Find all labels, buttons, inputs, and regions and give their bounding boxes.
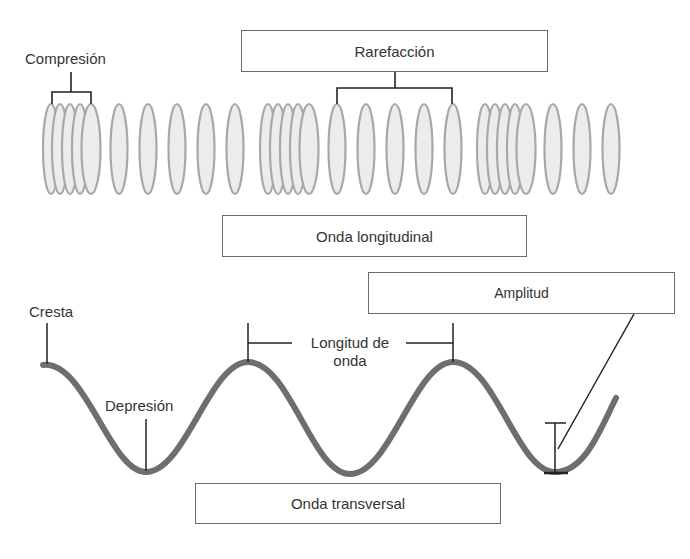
- rarefaction-label: Rarefacción: [354, 43, 434, 60]
- wavelength-label: Longitud de onda: [296, 334, 404, 369]
- transverse-wave-title: Onda transversal: [291, 495, 405, 512]
- compression-label: Compresión: [25, 50, 106, 67]
- crest-label: Cresta: [29, 303, 73, 320]
- longitudinal-wave-title-box: Onda longitudinal: [222, 215, 527, 257]
- wavelength-label-line1: Longitud de: [296, 334, 404, 351]
- amplitude-label-box: Amplitud: [368, 272, 675, 314]
- longitudinal-wave-particles: [43, 104, 620, 194]
- wavelength-label-line2: onda: [296, 352, 404, 369]
- trough-label: Depresión: [105, 397, 173, 414]
- longitudinal-wave-title: Onda longitudinal: [316, 228, 433, 245]
- wave-types-diagram: Compresión Rarefacción Onda longitudinal…: [0, 0, 690, 559]
- transverse-wave-title-box: Onda transversal: [195, 483, 501, 524]
- amplitude-label: Amplitud: [494, 285, 548, 301]
- rarefaction-bracket: [337, 72, 452, 104]
- transverse-wave-curve: [43, 362, 616, 474]
- rarefaction-label-box: Rarefacción: [241, 30, 548, 72]
- compression-bracket: [52, 72, 91, 104]
